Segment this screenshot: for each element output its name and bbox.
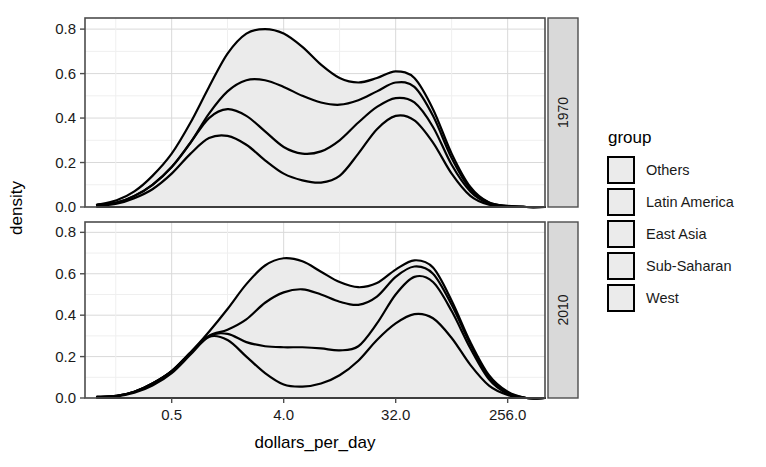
facet-strip-label: 1970 [555, 97, 571, 128]
legend-item-east-asia[interactable]: East Asia [607, 218, 762, 250]
legend-title: group [608, 128, 762, 148]
x-tick-label: 32.0 [381, 406, 410, 423]
legend-item-latin-america[interactable]: Latin America [607, 186, 762, 218]
y-tick-label: 0.8 [55, 223, 76, 240]
y-tick-label: 0.2 [55, 154, 76, 171]
x-axis-title: dollars_per_day [255, 433, 376, 452]
facet-strip-label: 2010 [555, 294, 571, 325]
x-tick-label: 0.5 [161, 406, 182, 423]
y-tick-label: 0.8 [55, 20, 76, 37]
legend-key-swatch [607, 188, 635, 216]
y-tick-label: 0.6 [55, 265, 76, 282]
legend-key-swatch [607, 284, 635, 312]
legend-item-label: Others [646, 162, 690, 178]
legend-item-label: East Asia [646, 226, 706, 242]
legend-items: OthersLatin AmericaEast AsiaSub-SaharanW… [607, 154, 762, 314]
legend: group OthersLatin AmericaEast AsiaSub-Sa… [607, 128, 762, 314]
legend-item-sub-saharan[interactable]: Sub-Saharan [607, 250, 762, 282]
y-tick-label: 0.4 [55, 109, 76, 126]
y-tick-label: 0.4 [55, 306, 76, 323]
panel-2010: 0.00.20.40.60.82010 [55, 222, 578, 406]
legend-item-label: Sub-Saharan [646, 258, 731, 274]
legend-item-west[interactable]: West [607, 282, 762, 314]
x-tick-label: 256.0 [489, 406, 527, 423]
legend-item-label: West [646, 290, 679, 306]
legend-item-others[interactable]: Others [607, 154, 762, 186]
panel-1970: 0.00.20.40.60.81970 [55, 18, 578, 215]
y-tick-label: 0.2 [55, 348, 76, 365]
legend-key-swatch [607, 220, 635, 248]
y-tick-label: 0.0 [55, 389, 76, 406]
density-plot-figure: 0.00.20.40.60.819700.00.20.40.60.820100.… [0, 0, 766, 467]
legend-item-label: Latin America [646, 194, 734, 210]
legend-key-swatch [607, 156, 635, 184]
y-axis-title: density [7, 181, 26, 235]
legend-key-swatch [607, 252, 635, 280]
y-tick-label: 0.6 [55, 65, 76, 82]
x-tick-label: 4.0 [273, 406, 294, 423]
y-tick-label: 0.0 [55, 198, 76, 215]
